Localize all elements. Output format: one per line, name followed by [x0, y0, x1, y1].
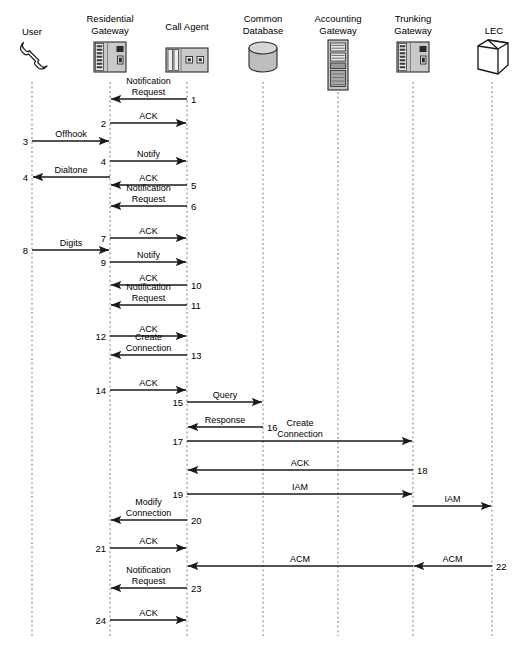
message-x20[interactable]: IAM: [413, 494, 491, 506]
message-4[interactable]: Dialtone4: [23, 165, 110, 183]
message-label: Dialtone: [54, 165, 87, 175]
message-20[interactable]: ModifyConnection20: [111, 497, 202, 526]
message-24[interactable]: ACK24: [95, 608, 186, 626]
message-7[interactable]: ACK7: [101, 226, 186, 244]
message-sequence-number: 10: [191, 280, 202, 291]
actor-user[interactable]: User: [21, 26, 47, 69]
message-sequence-number: 14: [95, 385, 106, 396]
actor-accounting-gateway[interactable]: Accounting Gateway: [314, 13, 361, 90]
message-sequence-number: 4: [23, 172, 28, 183]
message-label: ACK: [291, 458, 310, 468]
message-label: Notify: [137, 250, 161, 260]
actor-residential-gateway-label-line-2: Gateway: [91, 25, 129, 36]
message-label: Create: [286, 418, 313, 428]
message-8[interactable]: Digits8: [23, 238, 109, 256]
message-label: IAM: [292, 482, 308, 492]
actor-lec-label-line-1: LEC: [485, 25, 504, 36]
message-18[interactable]: ACK18: [188, 458, 428, 476]
message-sequence-number: 23: [191, 583, 202, 594]
sequence-diagram-svg: User Residential Gateway Call Agent: [0, 0, 526, 646]
message-label: Query: [213, 390, 238, 400]
message-label: Digits: [60, 238, 83, 248]
message-label: Connection: [277, 429, 323, 439]
message-sequence-number: 1: [191, 94, 196, 105]
message-sequence-number: 20: [191, 515, 202, 526]
actor-residential-gateway[interactable]: Residential Gateway: [87, 13, 134, 72]
message-3[interactable]: Offhook3: [23, 129, 109, 147]
message-label: Request: [132, 194, 166, 204]
gateway-device-icon: [397, 42, 429, 72]
message-label: Request: [132, 576, 166, 586]
sequence-diagram-canvas: User Residential Gateway Call Agent: [0, 0, 526, 646]
message-label: ACM: [290, 554, 310, 564]
actor-common-database-label-line-1: Common: [244, 13, 283, 24]
message-label: Notify: [137, 149, 161, 159]
actor-accounting-gateway-label-line-1: Accounting: [314, 13, 361, 24]
message-label: IAM: [444, 494, 460, 504]
message-label: Notification: [126, 76, 171, 86]
telephone-handset-icon: [21, 43, 47, 69]
message-sequence-number: 21: [95, 543, 106, 554]
actor-trunking-gateway-label-line-1: Trunking: [395, 13, 432, 24]
message-sequence-number: 13: [191, 350, 202, 361]
message-label: ACM: [443, 554, 463, 564]
actor-trunking-gateway-label-line-2: Gateway: [394, 25, 432, 36]
message-sequence-number: 19: [172, 489, 183, 500]
message-sequence-number: 22: [496, 561, 507, 572]
message-label: ACK: [139, 536, 158, 546]
gateway-device-icon: [94, 42, 126, 72]
message-sequence-number: 11: [191, 300, 201, 311]
message-sequence-number: 7: [101, 233, 106, 244]
message-group: NotificationRequest1ACK2Offhook3Notify4D…: [23, 76, 507, 626]
message-label: ACK: [139, 226, 158, 236]
server-rack-icon: [328, 40, 348, 90]
message-sequence-number: 15: [172, 397, 183, 408]
actor-common-database-label-line-2: Database: [243, 25, 284, 36]
message-6[interactable]: NotificationRequest6: [111, 183, 196, 212]
message-sequence-number: 16: [267, 422, 278, 433]
message-label: Offhook: [55, 129, 87, 139]
message-label: Request: [132, 87, 166, 97]
call-agent-device-icon: [166, 48, 208, 72]
actor-accounting-gateway-label-line-2: Gateway: [319, 25, 357, 36]
actor-common-database[interactable]: Common Database: [243, 13, 284, 72]
message-label: Connection: [126, 508, 172, 518]
message-label: Notification: [126, 282, 171, 292]
message-19[interactable]: IAM19: [172, 482, 412, 500]
message-sequence-number: 4: [101, 156, 106, 167]
message-sequence-number: 12: [95, 331, 106, 342]
message-label: ACK: [139, 173, 158, 183]
message-15[interactable]: Query15: [172, 390, 262, 408]
message-4[interactable]: Notify4: [101, 149, 186, 167]
actor-trunking-gateway[interactable]: Trunking Gateway: [394, 13, 432, 72]
actor-lec[interactable]: LEC: [478, 25, 508, 74]
message-x24[interactable]: ACM: [188, 554, 413, 566]
message-label: ACK: [139, 378, 158, 388]
message-1[interactable]: NotificationRequest1: [111, 76, 196, 105]
message-label: Create: [135, 332, 162, 342]
actor-call-agent[interactable]: Call Agent: [165, 21, 209, 72]
message-sequence-number: 5: [191, 180, 196, 191]
actor-user-label-line-1: User: [22, 26, 42, 37]
message-14[interactable]: ACK14: [95, 378, 186, 396]
message-label: ACK: [139, 111, 158, 121]
message-sequence-number: 24: [95, 615, 106, 626]
message-label: Connection: [126, 343, 172, 353]
message-sequence-number: 9: [101, 257, 106, 268]
message-label: Response: [205, 415, 246, 425]
actor-residential-gateway-label-line-1: Residential: [87, 13, 134, 24]
message-sequence-number: 17: [172, 436, 183, 447]
message-22[interactable]: ACM22: [414, 554, 507, 572]
message-2[interactable]: ACK2: [101, 111, 186, 129]
actor-call-agent-label-line-1: Call Agent: [165, 21, 209, 32]
message-sequence-number: 2: [101, 118, 106, 129]
message-label: Notification: [126, 565, 171, 575]
message-16[interactable]: Response16: [188, 415, 278, 433]
message-sequence-number: 18: [417, 465, 428, 476]
message-sequence-number: 8: [23, 245, 28, 256]
message-23[interactable]: NotificationRequest23: [111, 565, 202, 594]
message-21[interactable]: ACK21: [95, 536, 186, 554]
message-9[interactable]: Notify9: [101, 250, 186, 268]
message-sequence-number: 6: [191, 201, 196, 212]
message-label: ACK: [139, 608, 158, 618]
